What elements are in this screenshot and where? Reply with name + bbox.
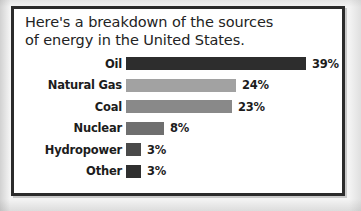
bar-category-label: Other bbox=[14, 164, 126, 178]
bar-value-label: 23% bbox=[238, 100, 265, 114]
bar-track: 23% bbox=[126, 100, 342, 114]
bar-value-label: 3% bbox=[147, 164, 166, 178]
bar-category-label: Coal bbox=[14, 100, 126, 114]
bar-nuclear bbox=[126, 122, 164, 135]
page-title: Here's a breakdown of the sources of ene… bbox=[25, 14, 325, 49]
bar-value-label: 39% bbox=[312, 57, 339, 71]
chart-row-hydropower: Hydropower 3% bbox=[14, 139, 342, 161]
bar-hydropower bbox=[126, 143, 141, 156]
bar-oil bbox=[126, 57, 306, 70]
bar-other bbox=[126, 165, 141, 178]
bar-category-label: Nuclear bbox=[14, 121, 126, 135]
bar-track: 8% bbox=[126, 121, 342, 135]
bar-category-label: Oil bbox=[14, 57, 126, 71]
chart-row-coal: Coal 23% bbox=[14, 96, 342, 118]
bar-value-label: 24% bbox=[242, 78, 269, 92]
chart-frame-inner: Here's a breakdown of the sources of ene… bbox=[14, 9, 342, 193]
chart-row-other: Other 3% bbox=[14, 161, 342, 183]
chart-row-oil: Oil 39% bbox=[14, 53, 342, 75]
bar-track: 24% bbox=[126, 78, 342, 92]
bar-track: 3% bbox=[126, 143, 342, 157]
bar-track: 3% bbox=[126, 164, 342, 178]
bar-coal bbox=[126, 100, 232, 113]
chart-frame: Here's a breakdown of the sources of ene… bbox=[11, 6, 345, 196]
bar-value-label: 3% bbox=[147, 143, 166, 157]
bar-category-label: Hydropower bbox=[14, 143, 126, 157]
scanned-page: Here's a breakdown of the sources of ene… bbox=[0, 0, 361, 211]
chart-row-natural-gas: Natural Gas 24% bbox=[14, 75, 342, 97]
bar-natural-gas bbox=[126, 79, 236, 92]
bar-category-label: Natural Gas bbox=[14, 78, 126, 92]
chart-row-nuclear: Nuclear 8% bbox=[14, 118, 342, 140]
bar-chart: Oil 39% Natural Gas 24% Coal bbox=[14, 53, 342, 182]
bar-value-label: 8% bbox=[170, 121, 189, 135]
bar-track: 39% bbox=[126, 57, 342, 71]
